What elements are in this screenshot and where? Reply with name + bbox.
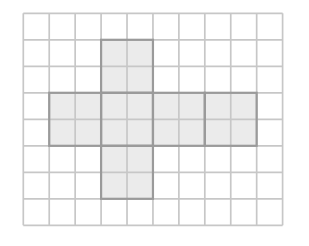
grid-figure [0,0,309,246]
figure-canvas [0,0,309,246]
